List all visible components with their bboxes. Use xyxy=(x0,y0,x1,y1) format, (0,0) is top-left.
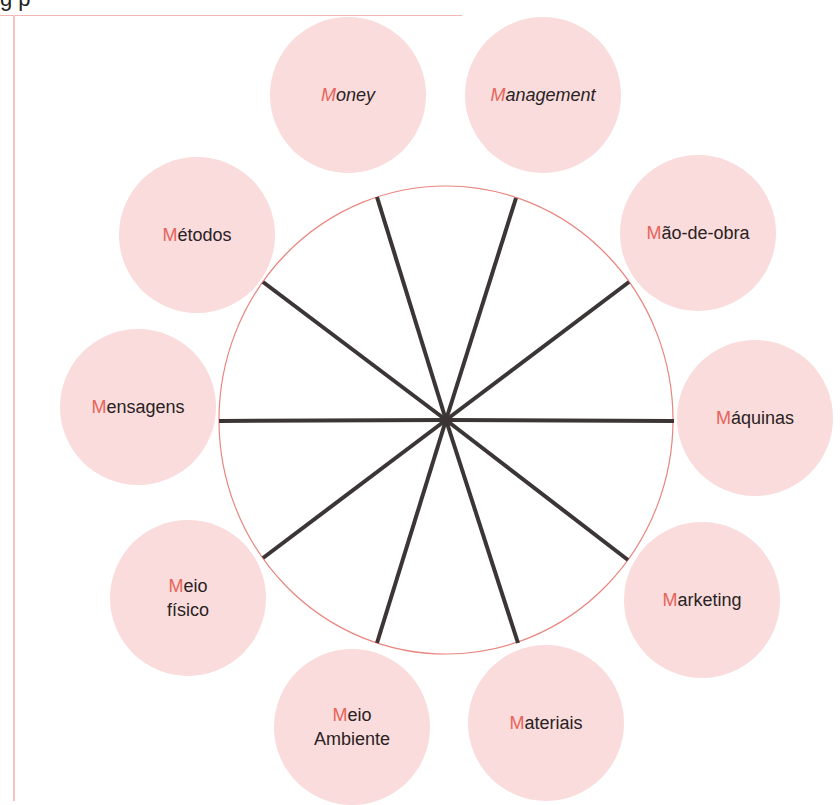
node-initial: M xyxy=(716,408,731,428)
node-label: arketing xyxy=(677,590,741,610)
node-initial: M xyxy=(490,85,505,105)
node-money: Money xyxy=(270,17,426,173)
node-materiais: Materiais xyxy=(468,645,624,801)
node-initial: M xyxy=(321,85,336,105)
node-initial: M xyxy=(91,397,106,417)
node-meio-ambiente: MeioAmbiente xyxy=(274,649,430,805)
node-metodos: Métodos xyxy=(119,157,275,313)
node-mensagens: Mensagens xyxy=(60,329,216,485)
node-initial: M xyxy=(168,576,183,596)
node-management: Management xyxy=(465,17,621,173)
node-label: áquinas xyxy=(731,408,794,428)
node-label: étodos xyxy=(177,225,231,245)
node-initial: M xyxy=(332,705,347,725)
node-initial: M xyxy=(662,590,677,610)
node-initial: M xyxy=(646,223,661,243)
node-label: eio xyxy=(183,576,207,596)
spoke-maquinas xyxy=(446,420,674,421)
node-initial: M xyxy=(162,225,177,245)
node-label: ateriais xyxy=(524,713,582,733)
node-marketing: Marketing xyxy=(624,522,780,678)
node-mao-de-obra: Mão-de-obra xyxy=(620,155,776,311)
node-label-line2: Ambiente xyxy=(314,729,390,749)
node-label: ão-de-obra xyxy=(661,223,749,243)
node-label: anagement xyxy=(505,85,595,105)
node-label: ensagens xyxy=(106,397,184,417)
node-label: eio xyxy=(347,705,371,725)
node-meio-fisico: Meiofísico xyxy=(110,520,266,676)
node-initial: M xyxy=(509,713,524,733)
node-label-line2: físico xyxy=(167,600,209,620)
node-maquinas: Máquinas xyxy=(677,340,833,496)
node-label: oney xyxy=(336,85,375,105)
spoke-mensagens xyxy=(219,420,446,421)
